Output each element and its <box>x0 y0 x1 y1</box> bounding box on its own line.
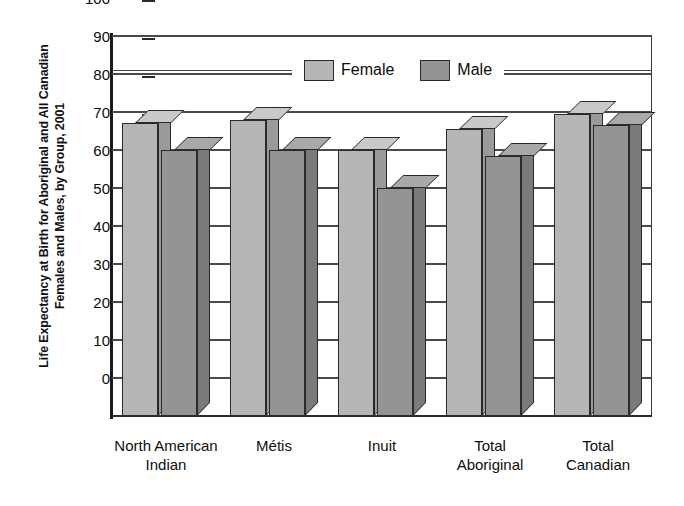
legend-label-male: Male <box>457 61 492 79</box>
legend-item-female[interactable]: Female <box>304 60 394 81</box>
bar-side-face <box>413 175 426 416</box>
y-tick-label-30: 30 <box>66 256 110 273</box>
y-tick-label-10: 10 <box>66 332 110 349</box>
bar-top-face <box>174 137 223 150</box>
bar-male-3[interactable] <box>485 156 521 416</box>
bar-top-face <box>243 107 292 120</box>
bar-side-face <box>521 142 534 416</box>
bar-top-face <box>282 137 331 150</box>
bar-top-face <box>135 110 184 123</box>
legend-swatch-male-icon <box>420 60 450 81</box>
y-tick-label-40: 40 <box>66 218 110 235</box>
bar-top-face <box>351 137 400 150</box>
bar-series-layer <box>112 36 652 416</box>
bar-front-face <box>593 125 629 416</box>
x-category-label-line: Total <box>530 436 666 455</box>
bar-front-face <box>377 188 413 416</box>
y-tick-label-90: 90 <box>66 28 110 45</box>
legend-swatch-female-icon <box>304 60 334 81</box>
y-tick-label-0: 0 <box>66 370 110 387</box>
y-tick-mark-100 <box>142 0 155 2</box>
bar-male-0[interactable] <box>161 150 197 416</box>
bar-top-face <box>390 175 439 188</box>
bar-side-face <box>305 137 318 416</box>
bar-front-face <box>554 114 590 416</box>
chart-legend: Female Male <box>112 52 652 88</box>
x-category-label-line: Indian <box>98 455 234 474</box>
bar-front-face <box>269 150 305 416</box>
y-tick-label-70: 70 <box>66 104 110 121</box>
legend-label-female: Female <box>341 61 394 79</box>
y-tick-label-50: 50 <box>66 180 110 197</box>
bar-front-face <box>161 150 197 416</box>
legend-item-male[interactable]: Male <box>420 60 492 81</box>
y-tick-label-20: 20 <box>66 294 110 311</box>
bar-top-face <box>567 101 616 114</box>
bar-front-face <box>338 150 374 416</box>
bar-female-2[interactable] <box>338 150 374 416</box>
x-category-label-4: TotalCanadian <box>530 436 666 474</box>
y-tick-label-60: 60 <box>66 142 110 159</box>
bar-front-face <box>446 129 482 416</box>
x-axis-categories: North AmericanIndianMétisInuitTotalAbori… <box>112 422 652 492</box>
bar-male-1[interactable] <box>269 150 305 416</box>
y-tick-label-80: 80 <box>66 66 110 83</box>
bar-top-face <box>498 143 547 156</box>
bar-front-face <box>485 156 521 416</box>
bar-male-4[interactable] <box>593 125 629 416</box>
bar-female-4[interactable] <box>554 114 590 416</box>
bar-top-face <box>459 116 508 129</box>
y-axis-ticks: 1009080706050403020100 <box>44 0 110 380</box>
y-tick-label-100: 100 <box>66 0 110 7</box>
bar-female-1[interactable] <box>230 120 266 416</box>
bar-male-2[interactable] <box>377 188 413 416</box>
chart-root: Life Expectancy at Birth for Aboriginal … <box>0 0 684 506</box>
bar-front-face <box>230 120 266 416</box>
x-category-label-line: Canadian <box>530 455 666 474</box>
bar-front-face <box>122 123 158 416</box>
bar-female-3[interactable] <box>446 129 482 416</box>
bar-side-face <box>629 112 642 416</box>
bar-top-face <box>606 112 655 125</box>
bar-female-0[interactable] <box>122 123 158 416</box>
bar-side-face <box>197 137 210 416</box>
